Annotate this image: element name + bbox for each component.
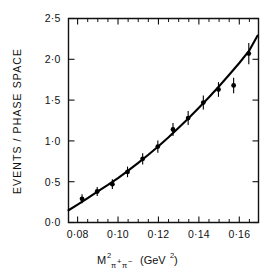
- x-tick-label: 0·16: [228, 228, 250, 240]
- x-tick-label: 0·10: [107, 228, 129, 240]
- x-tick-labels: 0·080·100·120·140·16: [67, 228, 251, 240]
- data-point: [125, 167, 130, 178]
- x-axis-title: M 2 π + π − (GeV 2 ): [97, 251, 178, 270]
- x-axis-title-exponent: 2: [107, 251, 111, 260]
- x-axis-title-units-open: (GeV: [140, 254, 166, 266]
- x-tick-label: 0·14: [188, 228, 210, 240]
- data-marker: [125, 170, 130, 175]
- x-axis-title-sub-pi-b-charge: −: [128, 257, 133, 266]
- data-marker: [216, 87, 221, 92]
- x-axis-title-sub-pi-b: π: [122, 261, 127, 270]
- data-point: [186, 111, 191, 125]
- data-marker: [80, 196, 85, 201]
- data-marker: [140, 156, 145, 161]
- events-per-phase-space-plot: 0·00·51·01·52·02·5 0·080·100·120·140·16 …: [0, 0, 269, 279]
- data-point: [201, 96, 206, 110]
- data-points-group: [80, 43, 252, 203]
- data-marker: [155, 144, 160, 149]
- figure-container: 0·00·51·01·52·02·5 0·080·100·120·140·16 …: [0, 0, 269, 279]
- data-marker: [171, 127, 176, 132]
- data-marker: [110, 182, 115, 187]
- y-axis-title: EVENTS / PHASE SPACE: [11, 48, 23, 194]
- data-marker: [186, 116, 191, 121]
- x-axis-title-sub-pi-a: π: [111, 261, 116, 270]
- data-point: [155, 140, 160, 152]
- y-tick-label: 2·0: [45, 53, 61, 65]
- y-tick-labels: 0·00·51·01·52·02·5: [45, 12, 61, 228]
- data-marker: [201, 100, 206, 105]
- y-tick-label: 2·5: [45, 12, 61, 24]
- data-marker: [246, 51, 251, 56]
- data-marker: [231, 83, 236, 88]
- data-point: [95, 187, 100, 196]
- x-axis-title-M: M: [97, 254, 106, 266]
- data-point: [231, 78, 236, 94]
- data-point: [246, 43, 251, 64]
- data-point: [140, 153, 145, 164]
- y-tick-label: 1·0: [45, 135, 61, 147]
- y-tick-label: 0·5: [45, 176, 61, 188]
- fit-curve: [69, 36, 258, 211]
- x-tick-label: 0·08: [67, 228, 89, 240]
- x-axis-title-units-close: ): [174, 254, 178, 266]
- y-tick-label: 0·0: [45, 216, 61, 228]
- data-marker: [95, 189, 100, 194]
- x-tick-label: 0·12: [148, 228, 170, 240]
- y-tick-label: 1·5: [45, 94, 61, 106]
